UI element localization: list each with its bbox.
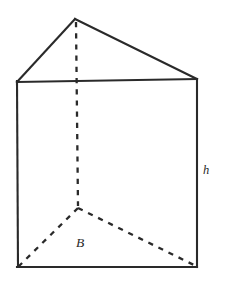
base-area-label: B (76, 235, 84, 250)
hidden-edges-group (19, 22, 196, 266)
top-left-slant-edge (17, 19, 75, 82)
figure-canvas: B h (0, 0, 225, 283)
rear-vertical-hidden-edge (76, 22, 78, 206)
base-right-diagonal-hidden-edge (78, 208, 196, 266)
top-right-slant-edge (75, 19, 197, 79)
top-front-horizontal-edge (17, 79, 197, 82)
solid-edges-group (17, 19, 197, 267)
triangular-prism-diagram: B h (0, 0, 225, 283)
height-label: h (203, 163, 209, 177)
left-vertical-edge (17, 81, 18, 267)
base-left-diagonal-hidden-edge (19, 208, 78, 266)
